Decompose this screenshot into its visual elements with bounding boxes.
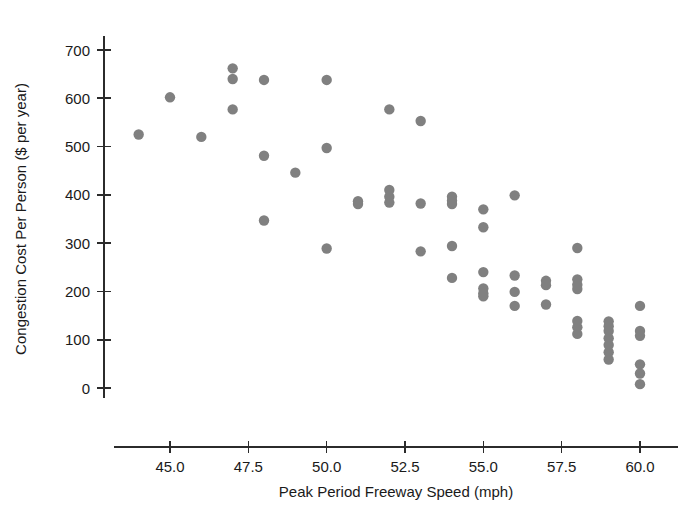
data-point: [447, 241, 457, 251]
data-point: [321, 143, 331, 153]
data-point: [259, 215, 269, 225]
y-axis-title: Congestion Cost Per Person ($ per year): [12, 83, 29, 355]
y-axis-tick-label: 400: [65, 186, 90, 203]
data-point: [415, 198, 425, 208]
scatter-plot-figure: 0100200300400500600700 45.047.550.052.55…: [0, 0, 680, 518]
data-point: [165, 92, 175, 102]
x-axis-tick-label: 60.0: [625, 458, 654, 475]
x-axis: 45.047.550.052.555.057.560.0: [114, 441, 678, 475]
y-axis-tick-label: 300: [65, 235, 90, 252]
data-point: [603, 354, 613, 364]
data-point: [635, 359, 645, 369]
data-point: [572, 284, 582, 294]
data-point: [415, 116, 425, 126]
data-point: [478, 267, 488, 277]
data-point: [353, 199, 363, 209]
y-axis-tick-label: 700: [65, 42, 90, 59]
data-point: [572, 329, 582, 339]
data-point: [541, 299, 551, 309]
y-axis: 0100200300400500600700: [65, 36, 111, 398]
x-axis-title: Peak Period Freeway Speed (mph): [279, 483, 513, 500]
data-point: [415, 246, 425, 256]
plot-canvas: 0100200300400500600700 45.047.550.052.55…: [0, 0, 680, 518]
data-point: [227, 74, 237, 84]
data-point: [541, 280, 551, 290]
x-axis-tick-label: 45.0: [155, 458, 184, 475]
x-axis-tick-label: 50.0: [312, 458, 341, 475]
x-axis-tick-label: 47.5: [234, 458, 263, 475]
data-point: [478, 222, 488, 232]
data-points-layer: [133, 63, 645, 389]
y-axis-tick-label: 100: [65, 331, 90, 348]
data-point: [259, 75, 269, 85]
data-point: [321, 243, 331, 253]
y-axis-tick-label: 500: [65, 138, 90, 155]
data-point: [227, 63, 237, 73]
data-point: [572, 243, 582, 253]
data-point: [509, 287, 519, 297]
data-point: [290, 167, 300, 177]
data-point: [478, 204, 488, 214]
data-point: [635, 301, 645, 311]
x-axis-tick-label: 55.0: [469, 458, 498, 475]
data-point: [478, 291, 488, 301]
data-point: [384, 104, 394, 114]
y-axis-tick-label: 600: [65, 90, 90, 107]
data-point: [133, 129, 143, 139]
data-point: [384, 197, 394, 207]
data-point: [196, 132, 206, 142]
data-point: [447, 199, 457, 209]
data-point: [635, 331, 645, 341]
data-point: [227, 104, 237, 114]
data-point: [259, 151, 269, 161]
data-point: [635, 368, 645, 378]
y-axis-tick-label: 0: [82, 380, 90, 397]
data-point: [509, 301, 519, 311]
x-axis-tick-label: 57.5: [547, 458, 576, 475]
data-point: [447, 273, 457, 283]
y-axis-tick-label: 200: [65, 283, 90, 300]
data-point: [509, 270, 519, 280]
data-point: [635, 379, 645, 389]
data-point: [321, 75, 331, 85]
x-axis-tick-label: 52.5: [390, 458, 419, 475]
data-point: [509, 190, 519, 200]
